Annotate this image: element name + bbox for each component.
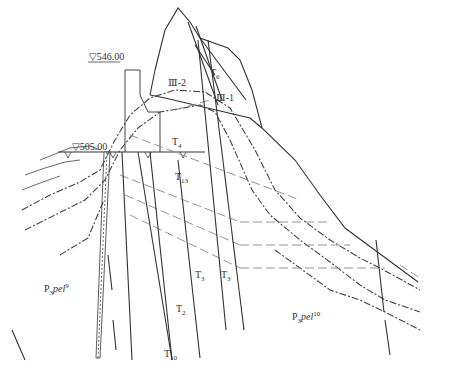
steep-faults <box>12 22 390 360</box>
grout-curtain <box>96 152 110 358</box>
fault-t3b-label: T3 <box>221 269 231 283</box>
zone-iii-2-label: Ⅲ-2 <box>168 77 186 88</box>
zone-iii-1-label: Ⅲ-1 <box>216 92 234 103</box>
weathering-boundaries <box>22 90 420 330</box>
rock-unit-right-label: P3pel10 <box>292 310 321 325</box>
fault-t2-label: T2 <box>176 303 186 317</box>
labels: ▽546.00 ▽505.00 Ⅲ-2 Ⅲ-1 T6 T4 T13 T3 T3 … <box>44 51 321 362</box>
dashed-bedding-lines <box>120 100 420 278</box>
rock-unit-left-label: P3pel9 <box>44 282 69 297</box>
base-elevation-label: ▽505.00 <box>72 141 107 152</box>
fault-t13-label: T13 <box>175 171 189 185</box>
cross-section-drawing: ▽546.00 ▽505.00 Ⅲ-2 Ⅲ-1 T6 T4 T13 T3 T3 … <box>0 0 457 380</box>
crest-elevation-label: ▽546.00 <box>89 51 124 62</box>
fault-t4-label: T4 <box>172 136 182 150</box>
fault-t3a-label: T3 <box>195 269 205 283</box>
